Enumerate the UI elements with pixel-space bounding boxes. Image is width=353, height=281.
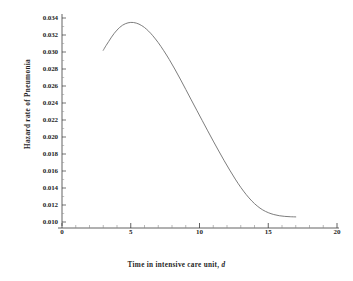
plot-area xyxy=(0,0,353,281)
axes-group xyxy=(58,14,339,228)
hazard-rate-chart: 0.0100.0120.0140.0160.0180.0200.0220.024… xyxy=(0,0,353,281)
plot-svg xyxy=(0,0,353,281)
data-curve-group xyxy=(103,22,296,217)
hazard-rate-line xyxy=(103,22,296,217)
